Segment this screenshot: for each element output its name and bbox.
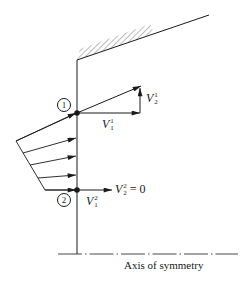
velocity-profile-outline	[16, 113, 77, 190]
wall-hatching	[77, 24, 154, 60]
flow-diagram	[0, 0, 250, 286]
profile-arrow-4	[38, 175, 76, 178]
profile-arrow-1	[16, 113, 76, 141]
upper-wall-line	[77, 15, 209, 60]
v2-1-label: V21	[86, 195, 98, 209]
point-1-dot	[74, 110, 80, 116]
point-2-label: 2	[57, 193, 71, 207]
v1-2-label: V12	[146, 92, 158, 106]
point-1-label: 1	[57, 98, 71, 112]
profile-arrow-3	[30, 156, 76, 165]
resultant-velocity-arrow-1	[77, 86, 141, 113]
profile-arrow-2	[23, 138, 76, 153]
axis-of-symmetry-label: Axis of symmetry	[124, 260, 203, 271]
v2-2-label: V22 = 0	[115, 183, 146, 197]
v1-1-label: V11	[102, 118, 114, 132]
point-2-dot	[74, 187, 80, 193]
